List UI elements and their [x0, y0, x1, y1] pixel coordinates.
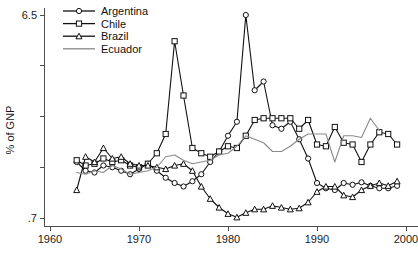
triangle-marker — [314, 189, 320, 195]
y-axis-ticks — [40, 15, 44, 218]
square-marker — [314, 142, 319, 147]
square-marker — [163, 131, 168, 136]
square-marker — [359, 159, 364, 164]
circle-marker — [76, 8, 81, 13]
circle-marker — [225, 133, 230, 138]
square-marker — [76, 21, 81, 26]
circle-marker — [279, 126, 284, 131]
x-tick-label: 1980 — [216, 233, 240, 245]
triangle-marker — [376, 180, 382, 186]
x-tick-label: 1970 — [127, 233, 151, 245]
circle-marker — [83, 168, 88, 173]
y-tick-label: 6.5 — [22, 9, 37, 21]
line-chart: 6.5.7 19601970198019902000 % of GNP Arge… — [0, 0, 418, 260]
legend-item-chile: Chile — [63, 18, 126, 30]
triangle-marker — [359, 187, 365, 193]
circle-marker — [234, 119, 239, 124]
triangle-marker — [198, 184, 204, 190]
circle-marker — [350, 182, 355, 187]
square-marker — [386, 131, 391, 136]
circle-marker — [243, 12, 248, 17]
triangle-marker — [243, 210, 249, 216]
square-marker — [332, 124, 337, 129]
square-marker — [225, 144, 230, 149]
square-marker — [279, 116, 284, 121]
y-axis-tick-labels: 6.5.7 — [22, 9, 37, 224]
circle-marker — [163, 175, 168, 180]
circle-marker — [101, 163, 106, 168]
triangle-marker — [270, 203, 276, 209]
circle-marker — [306, 156, 311, 161]
legend-label: Chile — [101, 18, 126, 30]
square-marker — [297, 126, 302, 131]
circle-marker — [252, 88, 257, 93]
square-marker — [395, 142, 400, 147]
legend-item-ecuador: Ecuador — [63, 43, 142, 55]
triangle-marker — [100, 145, 106, 151]
legend-label: Ecuador — [101, 43, 142, 55]
circle-marker — [261, 79, 266, 84]
circle-marker — [172, 180, 177, 185]
circle-marker — [314, 180, 319, 185]
chart-container: 6.5.7 19601970198019902000 % of GNP Arge… — [0, 0, 418, 260]
square-marker — [306, 117, 311, 122]
x-tick-label: 1960 — [38, 233, 62, 245]
x-tick-label: 1990 — [305, 233, 329, 245]
square-marker — [270, 116, 275, 121]
square-marker — [154, 151, 159, 156]
legend-label: Brazil — [101, 30, 129, 42]
square-marker — [217, 149, 222, 154]
square-marker — [350, 142, 355, 147]
legend-label: Argentina — [101, 5, 149, 17]
triangle-marker — [118, 154, 124, 160]
series-line — [77, 148, 397, 217]
square-marker — [288, 116, 293, 121]
triangle-marker — [234, 214, 240, 220]
series-chile — [74, 39, 400, 170]
circle-marker — [359, 180, 364, 185]
x-axis-tick-labels: 19601970198019902000 — [38, 233, 418, 245]
square-marker — [323, 144, 328, 149]
x-axis-ticks — [50, 226, 406, 231]
legend-item-brazil: Brazil — [63, 30, 129, 42]
square-marker — [368, 142, 373, 147]
circle-marker — [341, 180, 346, 185]
circle-marker — [199, 172, 204, 177]
square-marker — [199, 151, 204, 156]
square-marker — [261, 116, 266, 121]
triangle-marker — [394, 178, 400, 184]
triangle-marker — [74, 187, 80, 193]
legend-item-argentina: Argentina — [63, 5, 149, 17]
circle-marker — [190, 179, 195, 184]
x-tick-label: 2000 — [394, 233, 418, 245]
triangle-marker — [83, 154, 89, 160]
square-marker — [172, 39, 177, 44]
square-marker — [181, 93, 186, 98]
y-tick-label: .7 — [28, 212, 37, 224]
axes — [40, 8, 418, 231]
square-marker — [101, 156, 106, 161]
circle-marker — [377, 186, 382, 191]
circle-marker — [270, 123, 275, 128]
chart-legend: ArgentinaChileBrazilEcuador — [63, 5, 149, 55]
square-marker — [190, 145, 195, 150]
square-marker — [252, 117, 257, 122]
y-axis-title: % of GNP — [4, 106, 16, 155]
square-marker — [74, 158, 79, 163]
circle-marker — [181, 184, 186, 189]
